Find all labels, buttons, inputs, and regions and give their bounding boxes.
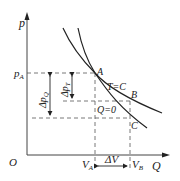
y-axis-label: p — [18, 16, 25, 30]
isotherm-curve — [78, 28, 162, 113]
pA-label: pA — [13, 67, 25, 81]
isotherm-label: T=C — [107, 81, 126, 92]
point-B-label: B — [131, 89, 137, 100]
diagram-canvas: p Q O pA VA VB A B C T=C Q=0 ΔpQ ΔpT ΔV — [0, 0, 180, 181]
point-A-label: A — [96, 66, 104, 77]
x-axis-arrow-icon — [162, 153, 170, 158]
y-axis-arrow-icon — [25, 12, 30, 20]
x-axis-label: Q — [152, 159, 161, 173]
delta-pQ-label: ΔpQ — [37, 92, 50, 109]
pv-diagram: p Q O pA VA VB A B C T=C Q=0 ΔpQ ΔpT ΔV — [0, 0, 180, 181]
delta-V-label: ΔV — [104, 153, 119, 165]
VA-label: VA — [82, 158, 94, 172]
adiabat-label: Q=0 — [97, 104, 116, 115]
point-C-label: C — [131, 120, 138, 131]
VB-label: VB — [132, 158, 144, 172]
delta-pT-label: ΔpT — [59, 81, 72, 98]
origin-label: O — [9, 156, 17, 168]
